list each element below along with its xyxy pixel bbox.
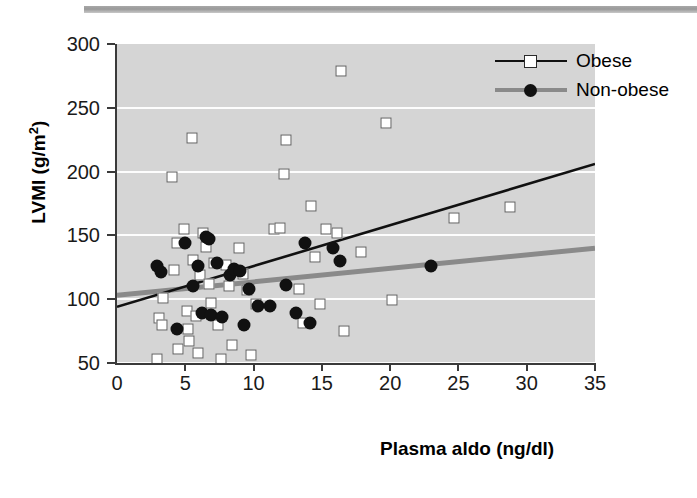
x-tick-10: [253, 363, 255, 371]
x-axis-label: Plasma aldo (ng/dl): [380, 438, 554, 460]
y-tick-50: [107, 362, 115, 364]
y-tick-label-250: 250: [48, 96, 100, 119]
legend-marker-filled-circle-icon: [495, 82, 567, 98]
x-tick-label-15: 15: [311, 372, 333, 395]
data-point-non-obese: [425, 260, 438, 273]
data-point-obese: [203, 278, 214, 289]
x-tick-label-20: 20: [379, 372, 401, 395]
data-point-obese: [178, 224, 189, 235]
data-point-non-obese: [179, 237, 192, 250]
filled-circle-icon: [524, 84, 537, 97]
data-point-obese: [157, 319, 168, 330]
data-point-obese: [187, 133, 198, 144]
data-point-obese: [166, 171, 177, 182]
data-point-non-obese: [303, 317, 316, 330]
scatter-chart-figure: 50100150200250300 05101520253035 LVMI (g…: [0, 0, 697, 498]
y-tick-300: [107, 43, 115, 45]
y-tick-label-50: 50: [48, 352, 100, 375]
data-point-obese: [449, 212, 460, 223]
data-point-obese: [278, 169, 289, 180]
data-point-obese: [151, 354, 162, 363]
data-point-obese: [183, 323, 194, 334]
y-tick-150: [107, 234, 115, 236]
x-tick-label-10: 10: [242, 372, 264, 395]
data-point-obese: [381, 118, 392, 129]
data-point-non-obese: [289, 307, 302, 320]
data-point-non-obese: [238, 318, 251, 331]
x-tick-5: [184, 363, 186, 371]
data-point-non-obese: [243, 282, 256, 295]
data-point-obese: [192, 347, 203, 358]
x-tick-label-0: 0: [111, 372, 122, 395]
data-point-obese: [173, 343, 184, 354]
x-tick-label-30: 30: [516, 372, 538, 395]
data-point-obese: [293, 283, 304, 294]
y-tick-label-150: 150: [48, 224, 100, 247]
legend-marker-open-square-icon: [495, 53, 567, 69]
data-point-obese: [320, 224, 331, 235]
data-point-non-obese: [280, 279, 293, 292]
legend-item-non-obese: Non-obese: [495, 75, 685, 104]
data-point-obese: [335, 65, 346, 76]
legend-item-obese: Obese: [495, 46, 685, 75]
data-point-non-obese: [216, 311, 229, 324]
x-tick-label-5: 5: [180, 372, 191, 395]
data-point-obese: [169, 264, 180, 275]
data-point-obese: [505, 202, 516, 213]
x-tick-15: [321, 363, 323, 371]
data-point-obese: [233, 243, 244, 254]
data-point-obese: [310, 252, 321, 263]
data-point-obese: [215, 354, 226, 363]
x-tick-label-25: 25: [447, 372, 469, 395]
y-tick-200: [107, 171, 115, 173]
data-point-non-obese: [210, 257, 223, 270]
data-point-obese: [315, 299, 326, 310]
data-point-obese: [223, 281, 234, 292]
data-point-obese: [274, 222, 285, 233]
data-point-non-obese: [299, 237, 312, 250]
legend-label-non-obese: Non-obese: [576, 79, 669, 101]
x-tick-label-35: 35: [584, 372, 606, 395]
open-square-icon: [524, 55, 537, 68]
x-tick-25: [457, 363, 459, 371]
data-point-obese: [226, 340, 237, 351]
y-tick-label-300: 300: [48, 33, 100, 56]
data-point-non-obese: [233, 265, 246, 278]
data-point-obese: [245, 350, 256, 361]
data-point-non-obese: [191, 260, 204, 273]
y-tick-250: [107, 107, 115, 109]
legend: Obese Non-obese: [495, 46, 685, 104]
x-tick-30: [526, 363, 528, 371]
data-point-obese: [158, 292, 169, 303]
data-point-non-obese: [202, 233, 215, 246]
data-point-obese: [386, 295, 397, 306]
data-point-non-obese: [171, 322, 184, 335]
x-axis-line: [115, 363, 595, 365]
y-axis-label: LVMI (g/m2): [26, 72, 50, 272]
data-point-obese: [206, 298, 217, 309]
legend-label-obese: Obese: [576, 50, 632, 72]
data-point-obese: [331, 227, 342, 238]
y-tick-label-200: 200: [48, 160, 100, 183]
data-point-obese: [184, 336, 195, 347]
y-tick-100: [107, 298, 115, 300]
data-point-non-obese: [333, 254, 346, 267]
data-point-obese: [356, 246, 367, 257]
data-point-obese: [338, 326, 349, 337]
data-point-non-obese: [251, 299, 264, 312]
data-point-non-obese: [154, 266, 167, 279]
data-point-obese: [305, 201, 316, 212]
data-point-non-obese: [187, 280, 200, 293]
x-tick-35: [594, 363, 596, 371]
data-point-non-obese: [326, 242, 339, 255]
y-axis-line: [115, 44, 117, 365]
data-point-non-obese: [263, 299, 276, 312]
data-point-obese: [281, 134, 292, 145]
y-tick-label-100: 100: [48, 288, 100, 311]
x-tick-20: [389, 363, 391, 371]
